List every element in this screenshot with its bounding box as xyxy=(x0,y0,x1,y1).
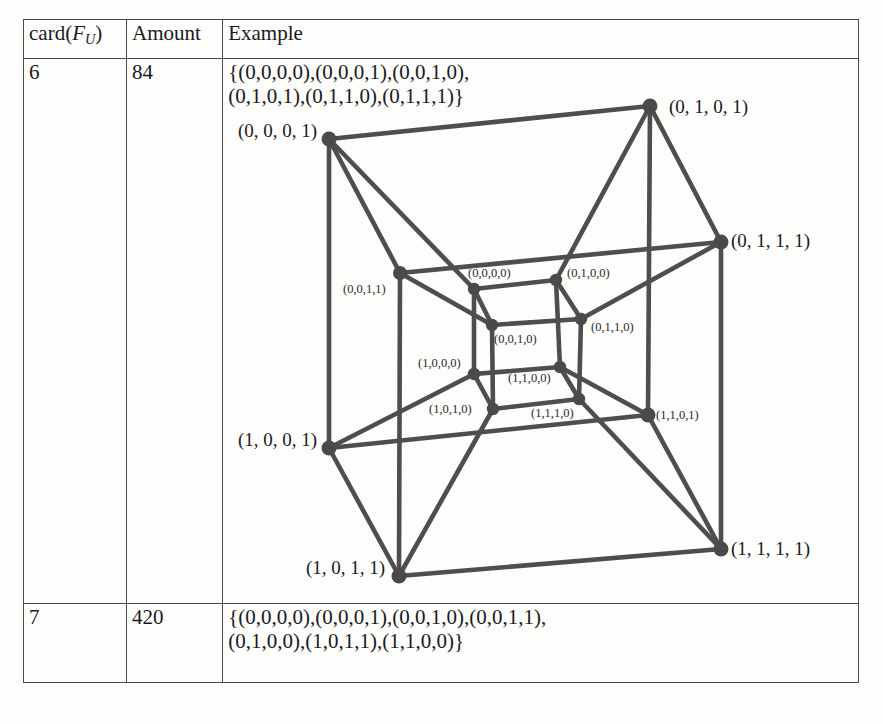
tesseract-vertex xyxy=(554,361,566,373)
table-header-row: card(FU) Amount Example xyxy=(24,20,859,59)
cell-cardinality-6: 6 xyxy=(24,59,127,604)
cell-amount-420: 420 xyxy=(127,604,223,683)
tesseract-edge xyxy=(474,280,556,289)
tesseract-vertex-label: (0,1,1,0) xyxy=(591,320,634,334)
tesseract-vertex xyxy=(468,283,480,295)
tesseract-edge xyxy=(648,106,650,415)
cell-example-7: {(0,0,0,0),(0,0,0,1),(0,0,1,0),(0,0,1,1)… xyxy=(223,604,859,683)
tesseract-edge xyxy=(492,319,581,325)
column-header-cardinality-suffix: ) xyxy=(95,21,102,45)
results-table: card(FU) Amount Example 6 84 {(0,0,0,0),… xyxy=(23,19,859,683)
column-header-cardinality-prefix: card( xyxy=(29,21,72,45)
tesseract-edge xyxy=(556,280,560,367)
table-row: 7 420 {(0,0,0,0),(0,0,0,1),(0,0,1,0),(0,… xyxy=(24,604,859,683)
cell-amount-84: 84 xyxy=(127,59,223,604)
cell-cardinality-7: 7 xyxy=(24,604,127,683)
tesseract-vertex xyxy=(392,569,407,584)
tesseract-vertex-label: (1,1,1,0) xyxy=(531,406,574,420)
tesseract-vertex-label: (1,1,0,1) xyxy=(656,408,699,422)
tesseract-vertex-label: (1, 1, 1, 1) xyxy=(731,538,810,560)
tesseract-vertex-label: (0,0,1,1) xyxy=(343,282,386,296)
tesseract-vertex-label: (0,0,0,0) xyxy=(468,266,511,280)
document-page: card(FU) Amount Example 6 84 {(0,0,0,0),… xyxy=(0,0,883,724)
tesseract-vertex-label: (0,1,0,0) xyxy=(567,266,610,280)
tesseract-edge xyxy=(329,139,400,273)
tesseract-vertex-label: (1,0,1,0) xyxy=(429,402,472,416)
tesseract-edge xyxy=(399,273,400,576)
tesseract-edge xyxy=(650,106,721,242)
tesseract-vertex xyxy=(643,99,658,114)
tesseract-edge xyxy=(399,549,721,576)
tesseract-vertex xyxy=(575,313,587,325)
tesseract-vertex-label: (1, 0, 1, 1) xyxy=(306,557,385,579)
tesseract-vertex-label: (0, 1, 0, 1) xyxy=(669,96,748,118)
table-row: 6 84 {(0,0,0,0),(0,0,0,1),(0,0,1,0), (0,… xyxy=(24,59,859,604)
tesseract-diagram: (0, 0, 0, 1)(0, 1, 0, 1)(0, 1, 1, 1)(1, … xyxy=(223,89,855,599)
tesseract-vertex-label: (0, 1, 1, 1) xyxy=(731,230,810,252)
tesseract-vertex xyxy=(468,368,480,380)
column-header-example: Example xyxy=(223,20,859,59)
math-variable-F-letter: F xyxy=(72,21,85,45)
tesseract-vertex xyxy=(714,235,729,250)
tesseract-vertex xyxy=(393,266,407,280)
tesseract-edge xyxy=(579,319,581,399)
tesseract-svg: (0, 0, 0, 1)(0, 1, 0, 1)(0, 1, 1, 1)(1, … xyxy=(223,89,855,599)
example-set-expression-7: {(0,0,0,0),(0,0,0,1),(0,0,1,0),(0,0,1,1)… xyxy=(228,606,854,654)
tesseract-vertex xyxy=(322,132,337,147)
math-variable-F: FU xyxy=(72,21,95,45)
tesseract-vertex-label: (0,0,1,0) xyxy=(494,332,537,346)
tesseract-vertex xyxy=(487,403,499,415)
tesseract-vertex xyxy=(573,393,585,405)
tesseract-edge xyxy=(329,106,650,139)
tesseract-vertex xyxy=(641,408,656,423)
tesseract-vertex xyxy=(322,441,337,456)
cell-example-6: {(0,0,0,0),(0,0,0,1),(0,0,1,0), (0,1,0,1… xyxy=(223,59,859,604)
tesseract-vertex-label: (1, 0, 0, 1) xyxy=(238,429,317,451)
column-header-amount: Amount xyxy=(127,20,223,59)
tesseract-vertex xyxy=(486,319,498,331)
column-header-cardinality: card(FU) xyxy=(24,20,127,59)
math-subscript-U: U xyxy=(85,31,95,47)
tesseract-vertex xyxy=(550,274,562,286)
tesseract-edge xyxy=(492,325,493,409)
tesseract-vertex-label: (1,0,0,0) xyxy=(418,356,461,370)
tesseract-vertex-label: (0, 0, 0, 1) xyxy=(238,120,317,142)
tesseract-label-layer: (0, 0, 0, 1)(0, 1, 0, 1)(0, 1, 1, 1)(1, … xyxy=(238,96,810,579)
tesseract-vertex-label: (1,1,0,0) xyxy=(508,371,551,385)
tesseract-vertex xyxy=(714,542,729,557)
